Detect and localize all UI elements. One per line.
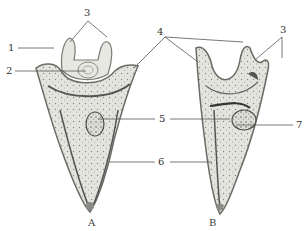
label-4: 4 <box>157 27 163 37</box>
label-2: 2 <box>6 66 12 76</box>
caption-a: A <box>88 217 95 228</box>
label-5: 5 <box>159 114 165 124</box>
cell-a <box>36 38 138 212</box>
diagram-figure: 1 2 3 4 3 5 7 6 A B <box>0 0 308 231</box>
cell-illustrations <box>0 0 308 231</box>
label-3-cell-b: 3 <box>280 25 286 35</box>
label-7: 7 <box>296 120 302 130</box>
caption-b: B <box>209 217 216 228</box>
cell-b <box>196 47 269 215</box>
label-3-cell-a: 3 <box>84 8 90 18</box>
label-1: 1 <box>8 43 14 53</box>
label-6: 6 <box>158 157 164 167</box>
